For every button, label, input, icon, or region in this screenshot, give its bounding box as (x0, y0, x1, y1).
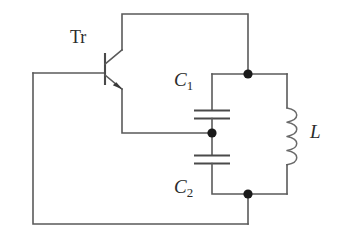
label-capacitor-c1: C1 (174, 70, 193, 93)
label-transistor: Tr (70, 28, 86, 46)
wire-collector-top-rail (122, 14, 248, 74)
circuit-diagram: Tr C1 C2 L (0, 0, 348, 250)
wire-c2-lower-to-bottom-rail (212, 164, 287, 195)
junction-node-bottom-right (243, 189, 252, 198)
label-c2-letter: C (174, 176, 187, 197)
wire-outer-feedback-loop (33, 73, 248, 224)
label-c1-subscript: 1 (187, 78, 193, 93)
label-c1-letter: C (174, 69, 187, 90)
inductor-coil-icon (287, 108, 297, 165)
junction-node-center-tap (207, 128, 216, 137)
transistor-collector-lead (105, 50, 122, 64)
label-capacitor-c2: C2 (174, 177, 193, 200)
circuit-schematic-svg (0, 0, 348, 250)
label-inductor-l: L (310, 122, 321, 141)
label-c2-subscript: 2 (187, 185, 193, 200)
junction-node-top-right (243, 69, 252, 78)
